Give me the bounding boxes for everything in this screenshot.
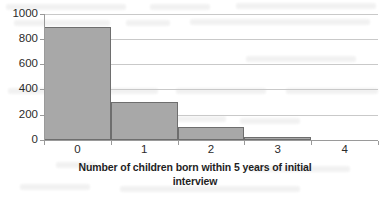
x-axis-tick-mark	[311, 141, 312, 145]
y-axis-tick-label: 0	[2, 134, 38, 146]
y-axis-tick-label: 400	[2, 83, 38, 95]
plot-area	[44, 14, 378, 140]
x-axis-tick-label: 4	[325, 144, 365, 156]
bar-category-0	[44, 27, 111, 140]
x-axis-title: Number of children born within 5 years o…	[30, 160, 360, 188]
x-axis-tick-mark	[378, 141, 379, 145]
x-axis-tick-label: 3	[258, 144, 298, 156]
bar-category-2	[178, 127, 245, 140]
x-axis-title-line-2: interview	[30, 174, 360, 188]
y-axis-tick-label: 1000	[2, 8, 38, 20]
bar-series	[44, 14, 378, 140]
histogram-chart: 1000 800 600 400 200 0 0 1 2	[0, 0, 391, 201]
x-axis-tick-mark	[111, 141, 112, 145]
x-axis-tick-mark	[178, 141, 179, 145]
y-axis-line	[44, 14, 45, 141]
x-axis-line	[44, 140, 378, 141]
x-axis-tick-mark	[44, 141, 45, 145]
y-axis-tick-label: 800	[2, 33, 38, 45]
x-axis-tick-label: 1	[124, 144, 164, 156]
x-axis-tick-mark	[244, 141, 245, 145]
y-axis-tick-label: 200	[2, 109, 38, 121]
bar-category-1	[111, 102, 178, 140]
y-axis-tick-label: 600	[2, 58, 38, 70]
x-axis-title-line-1: Number of children born within 5 years o…	[30, 160, 360, 174]
x-axis-tick-label: 0	[57, 144, 97, 156]
x-axis-tick-label: 2	[191, 144, 231, 156]
